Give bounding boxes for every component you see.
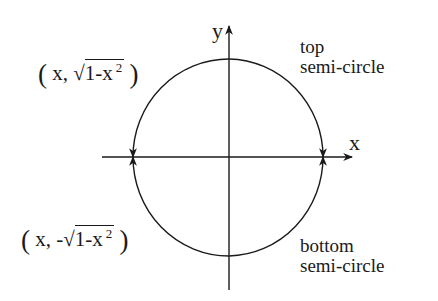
- exponent: 2: [116, 60, 123, 75]
- x-coordinate: x,: [52, 61, 68, 85]
- top-semicircle-left-arc: [133, 59, 229, 157]
- y-axis-label: y: [212, 20, 223, 42]
- open-paren: (: [21, 225, 30, 255]
- sqrt-expression: √1-x2: [63, 222, 114, 251]
- radicand: 1-x: [75, 227, 103, 251]
- open-paren: (: [38, 59, 47, 89]
- top-semicircle-label-line1: top: [300, 37, 384, 57]
- sqrt-icon: √: [73, 61, 85, 85]
- x-coordinate: x,: [35, 227, 51, 251]
- bottom-semicircle-label-line1: bottom: [300, 236, 384, 256]
- sqrt-icon: √: [63, 227, 75, 251]
- bottom-semicircle-label-line2: semi-circle: [300, 256, 384, 276]
- bottom-point-label: ( x, -√1-x2 ): [21, 222, 129, 252]
- close-paren: ): [130, 59, 139, 89]
- close-paren: ): [120, 225, 129, 255]
- bottom-semicircle-left-arc: [133, 157, 229, 256]
- x-axis-label: x: [349, 132, 360, 154]
- radicand: 1-x: [85, 61, 113, 85]
- top-semicircle-label: top semi-circle: [300, 37, 384, 77]
- sign: -: [56, 227, 63, 251]
- bottom-semicircle-label: bottom semi-circle: [300, 236, 384, 276]
- top-semicircle-label-line2: semi-circle: [300, 57, 384, 77]
- top-point-label: ( x, √1-x2 ): [38, 56, 139, 86]
- sqrt-expression: √1-x2: [73, 56, 124, 85]
- exponent: 2: [106, 226, 113, 241]
